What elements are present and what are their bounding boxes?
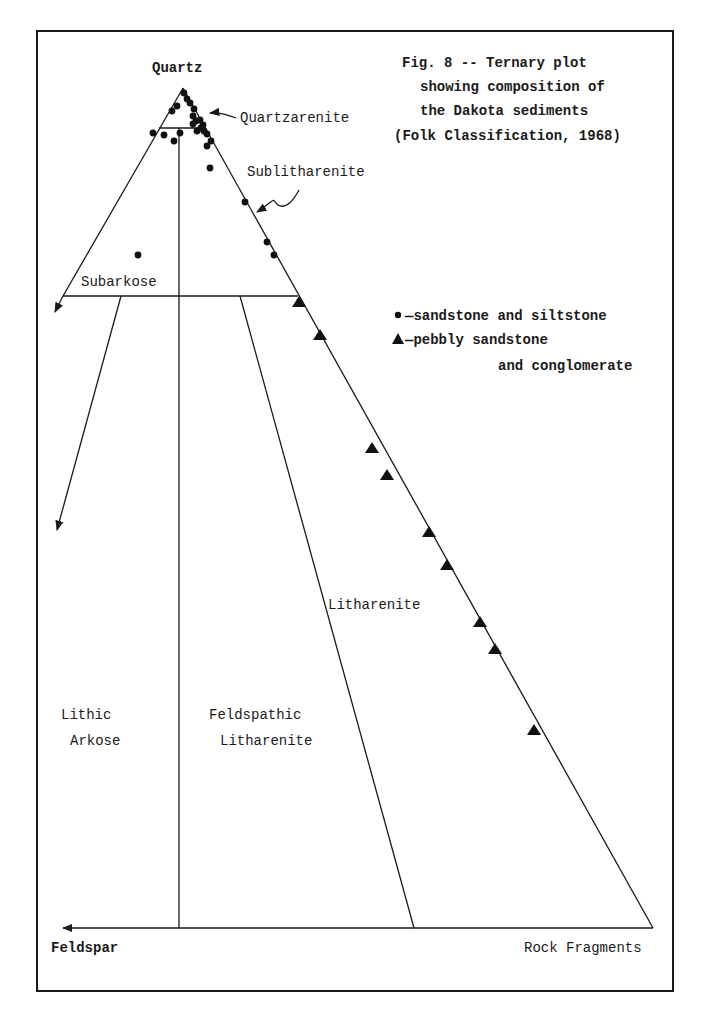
quartz-rockfragments-edge bbox=[183, 88, 653, 928]
data-point-triangle bbox=[527, 724, 541, 735]
data-point-circle bbox=[190, 121, 197, 128]
legend-label-conglomerate: and conglomerate bbox=[498, 358, 632, 374]
field-label-sublitharenite: Sublitharenite bbox=[247, 164, 365, 180]
quartzarenite-pointer bbox=[210, 113, 236, 118]
ternary-figure: Quartz Feldspar Rock Fragments Fig. 8 --… bbox=[0, 0, 704, 1022]
data-point-triangle bbox=[488, 643, 502, 654]
sublitharenite-pointer bbox=[257, 190, 299, 212]
data-point-circle bbox=[271, 252, 278, 259]
figure-title-line-3: the Dakota sediments bbox=[420, 103, 588, 119]
data-point-triangle bbox=[440, 559, 454, 570]
legend-label-sandstone: —sandstone and siltstone bbox=[404, 308, 607, 324]
data-point-circle bbox=[207, 165, 214, 172]
data-point-circle bbox=[150, 130, 157, 137]
figure-title-line-1: Fig. 8 -- Ternary plot bbox=[402, 55, 587, 71]
data-point-triangle bbox=[473, 616, 487, 627]
data-point-triangle bbox=[313, 329, 327, 340]
figure-title-line-4: (Folk Classification, 1968) bbox=[394, 128, 621, 144]
field-label-lithic: Lithic bbox=[61, 707, 111, 723]
apex-label-rock-fragments: Rock Fragments bbox=[524, 940, 642, 956]
lithic-arkose-boundary-arrow bbox=[57, 296, 121, 530]
data-point-circle bbox=[135, 252, 142, 259]
field-label-feldspathic: Feldspathic bbox=[209, 707, 301, 723]
data-point-circle bbox=[177, 130, 184, 137]
field-label-quartzarenite: Quartzarenite bbox=[240, 110, 349, 126]
field-label-litharenite: Litharenite bbox=[328, 597, 420, 613]
data-point-circle bbox=[191, 106, 198, 113]
data-point-circle bbox=[204, 131, 211, 138]
data-point-circle bbox=[198, 125, 205, 132]
legend-triangle-icon bbox=[392, 333, 404, 344]
data-point-circle bbox=[181, 90, 188, 97]
data-point-circle bbox=[187, 100, 194, 107]
data-point-circle bbox=[242, 199, 249, 206]
data-point-circle bbox=[204, 143, 211, 150]
data-point-circle bbox=[171, 138, 178, 145]
figure-title-line-2: showing composition of bbox=[420, 79, 605, 95]
quartz-feldspar-edge bbox=[63, 88, 183, 296]
apex-label-feldspar: Feldspar bbox=[51, 940, 118, 956]
feldspar-edge-arrow-upper bbox=[55, 296, 63, 312]
data-point-circle bbox=[264, 239, 271, 246]
data-point-circle bbox=[174, 103, 181, 110]
data-point-triangle bbox=[292, 296, 306, 307]
field-label-arkose: Arkose bbox=[70, 733, 120, 749]
data-point-circle bbox=[169, 108, 176, 115]
data-point-triangle bbox=[365, 442, 379, 453]
data-point-triangle bbox=[380, 469, 394, 480]
field-label-litharenite-2: Litharenite bbox=[220, 733, 312, 749]
data-point-circle bbox=[161, 132, 168, 139]
apex-label-quartz: Quartz bbox=[152, 60, 202, 76]
legend-circle-icon bbox=[395, 312, 401, 318]
field-label-subarkose: Subarkose bbox=[81, 274, 157, 290]
data-point-triangle bbox=[422, 526, 436, 537]
legend: —sandstone and siltstone —pebbly sandsto… bbox=[392, 308, 632, 374]
legend-label-pebbly: —pebbly sandstone bbox=[404, 332, 548, 348]
